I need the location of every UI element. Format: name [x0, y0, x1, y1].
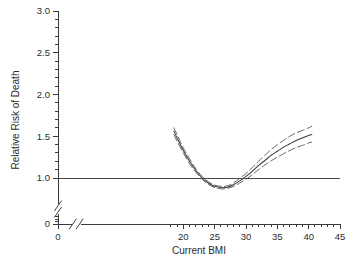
relative-risk-vs-bmi-chart: 01.01.52.02.53.0 0202530354045 Current B… — [0, 0, 353, 265]
y-tick-label-1: 1.0 — [37, 172, 50, 183]
y-tick-label-1-5: 1.5 — [37, 131, 50, 142]
x-tick-label-30: 30 — [241, 231, 252, 242]
y-tick-label-2: 2.0 — [37, 89, 50, 100]
x-tick-label-20: 20 — [178, 231, 189, 242]
y-axis-title: Relative Risk of Death — [10, 71, 21, 170]
x-tick-label-35: 35 — [272, 231, 283, 242]
y-tick-label-3: 3.0 — [37, 5, 50, 16]
x-tick-label-45: 45 — [335, 231, 346, 242]
y-tick-label-0: 0 — [45, 218, 50, 229]
x-tick-label-25: 25 — [209, 231, 220, 242]
x-tick-label-40: 40 — [303, 231, 314, 242]
y-tick-label-2-5: 2.5 — [37, 47, 50, 58]
x-axis-title: Current BMI — [172, 245, 226, 256]
x-tick-label-0: 0 — [55, 231, 60, 242]
figure-container: 01.01.52.02.53.0 0202530354045 Current B… — [0, 0, 353, 265]
